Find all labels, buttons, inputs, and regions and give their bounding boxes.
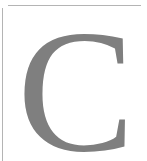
letter-c-glyph: C: [0, 0, 147, 161]
letter-c-text: C: [17, 0, 134, 161]
letter-tile: C: [0, 0, 147, 161]
